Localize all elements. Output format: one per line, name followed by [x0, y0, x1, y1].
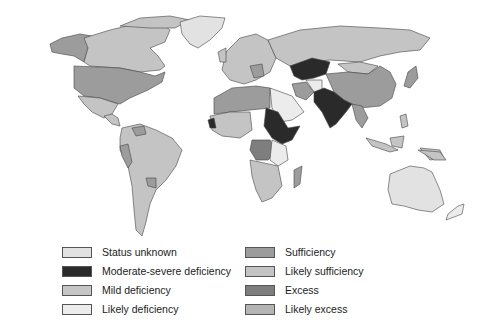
legend-label: Likely sufficiency: [285, 265, 364, 277]
region-central-america: [104, 114, 120, 126]
world-map: [0, 0, 478, 240]
legend-label: Moderate-severe deficiency: [102, 265, 231, 277]
legend-item-likely-deficiency: Likely deficiency: [62, 300, 178, 318]
legend-label: Likely deficiency: [102, 303, 178, 315]
region-canada: [84, 22, 170, 72]
region-australia: [388, 166, 444, 212]
region-japan: [404, 66, 418, 88]
legend-swatch: [245, 285, 275, 296]
map-legend: Status unknown Moderate-severe deficienc…: [62, 243, 392, 323]
region-canada-arctic: [120, 16, 190, 28]
legend-swatch: [62, 304, 92, 315]
region-new-zealand: [446, 204, 464, 220]
legend-swatch: [62, 285, 92, 296]
region-philippines: [400, 114, 408, 128]
legend-label: Mild deficiency: [102, 284, 171, 296]
legend-label: Status unknown: [102, 246, 177, 258]
legend-swatch: [62, 266, 92, 277]
legend-label: Excess: [285, 284, 319, 296]
legend-item-excess: Excess: [245, 281, 319, 299]
region-madagascar: [294, 166, 302, 188]
region-north-africa: [214, 86, 270, 114]
legend-label: Sufficiency: [285, 246, 336, 258]
region-east-africa: [270, 140, 288, 166]
region-russia: [268, 26, 430, 66]
legend-swatch: [245, 247, 275, 258]
legend-item-sufficiency: Sufficiency: [245, 243, 336, 261]
legend-item-likely-excess: Likely excess: [245, 300, 347, 318]
region-southern-africa: [250, 160, 282, 202]
legend-swatch: [245, 304, 275, 315]
region-new-guinea: [418, 150, 446, 160]
region-greenland: [180, 16, 225, 48]
legend-swatch: [62, 247, 92, 258]
legend-item-likely-sufficiency: Likely sufficiency: [245, 262, 364, 280]
legend-item-moderate-severe-deficiency: Moderate-severe deficiency: [62, 262, 231, 280]
legend-item-status-unknown: Status unknown: [62, 243, 177, 261]
legend-label: Likely excess: [285, 303, 347, 315]
legend-swatch: [245, 266, 275, 277]
region-europe: [222, 34, 276, 84]
region-west-africa: [210, 112, 252, 138]
legend-item-mild-deficiency: Mild deficiency: [62, 281, 171, 299]
region-uk: [218, 48, 226, 62]
